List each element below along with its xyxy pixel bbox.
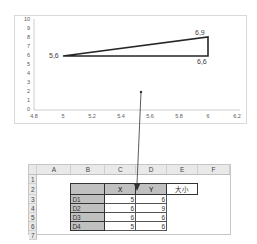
data-label: 5,6 [49, 52, 59, 59]
cell[interactable] [71, 184, 105, 195]
row-header[interactable]: 1 [29, 175, 37, 184]
y-cell[interactable]: 6 [136, 222, 167, 231]
triangle-series-line [63, 37, 208, 56]
cell[interactable] [198, 175, 230, 184]
row-header[interactable]: 4 [29, 204, 37, 213]
x-cell[interactable]: 6 [105, 213, 136, 222]
cell[interactable] [198, 195, 230, 204]
x-tick: 5.2 [82, 113, 102, 119]
cell[interactable] [105, 175, 136, 184]
sheet-row: 5 D3 6 6 [29, 213, 230, 222]
header-size-cell[interactable]: 大小 [167, 184, 198, 195]
column-header[interactable]: E [167, 165, 198, 175]
cell[interactable] [37, 204, 71, 213]
header-x-cell[interactable]: X [105, 184, 136, 195]
data-label: 6,9 [195, 29, 205, 36]
cell[interactable] [198, 184, 230, 195]
sheet-row: 4 D2 6 9 [29, 204, 230, 213]
column-header[interactable]: D [136, 165, 167, 175]
x-tick: 5.8 [169, 113, 189, 119]
y-tick: 6 [18, 52, 30, 58]
scatter-chart[interactable]: 10 9 8 7 6 5 4 3 2 1 0 4.8 5 5.2 5.4 5.6… [14, 15, 247, 124]
label-cell[interactable]: D2 [71, 204, 105, 213]
x-tick: 6 [198, 113, 218, 119]
y-tick: 4 [18, 70, 30, 76]
chart-plot [15, 16, 246, 123]
sheet-row: 2 X Y 大小 [29, 184, 230, 195]
cell[interactable] [37, 175, 71, 184]
x-cell[interactable]: 6 [105, 204, 136, 213]
cell[interactable] [167, 222, 198, 231]
cell[interactable] [198, 213, 230, 222]
x-tick: 4.8 [24, 113, 44, 119]
y-tick: 3 [18, 79, 30, 85]
sheet-row: 6 D4 5 6 [29, 222, 230, 231]
select-all-corner[interactable] [29, 165, 37, 175]
sheet-row: 7 [29, 231, 230, 240]
y-tick: 2 [18, 88, 30, 94]
x-tick: 5 [53, 113, 73, 119]
column-header[interactable]: F [198, 165, 230, 175]
column-header[interactable]: A [37, 165, 71, 175]
x-tick: 5.6 [140, 113, 160, 119]
sheet-row: 3 D1 5 6 [29, 195, 230, 204]
cell[interactable] [136, 175, 167, 184]
cell[interactable] [71, 231, 105, 240]
label-cell[interactable]: D1 [71, 195, 105, 204]
x-cell[interactable]: 5 [105, 222, 136, 231]
cell[interactable] [198, 222, 230, 231]
data-label: 6,6 [197, 58, 207, 65]
cell[interactable] [167, 213, 198, 222]
cell[interactable] [167, 204, 198, 213]
cell[interactable] [167, 175, 198, 184]
column-header[interactable]: C [105, 165, 136, 175]
cell[interactable] [37, 195, 71, 204]
y-tick: 5 [18, 61, 30, 67]
x-cell[interactable]: 5 [105, 195, 136, 204]
y-tick: 7 [18, 43, 30, 49]
cell[interactable] [37, 231, 71, 240]
row-header[interactable]: 2 [29, 184, 37, 195]
y-tick: 1 [18, 97, 30, 103]
cell[interactable] [198, 231, 230, 240]
x-tick: 6.2 [227, 113, 247, 119]
row-header[interactable]: 7 [29, 231, 37, 240]
cell[interactable] [37, 213, 71, 222]
row-header[interactable]: 6 [29, 222, 37, 231]
sheet-row: 1 [29, 175, 230, 184]
y-cell[interactable]: 9 [136, 204, 167, 213]
cell[interactable] [37, 184, 71, 195]
y-tick: 8 [18, 34, 30, 40]
row-header[interactable]: 5 [29, 213, 37, 222]
y-tick: 10 [18, 16, 30, 22]
column-header[interactable]: B [71, 165, 105, 175]
cell[interactable] [37, 222, 71, 231]
row-header[interactable]: 3 [29, 195, 37, 204]
cell[interactable] [198, 204, 230, 213]
cell[interactable] [167, 231, 198, 240]
y-tick: 9 [18, 25, 30, 31]
y-cell[interactable]: 6 [136, 195, 167, 204]
label-cell[interactable]: D3 [71, 213, 105, 222]
header-y-cell[interactable]: Y [136, 184, 167, 195]
spreadsheet[interactable]: A B C D E F 1 2 X Y 大小 3 D1 5 6 [28, 164, 231, 235]
cell[interactable] [136, 231, 167, 240]
y-cell[interactable]: 6 [136, 213, 167, 222]
y-tick: 0 [18, 106, 30, 112]
x-tick: 5.4 [111, 113, 131, 119]
column-header-row: A B C D E F [29, 165, 230, 175]
cell[interactable] [71, 175, 105, 184]
cell[interactable] [105, 231, 136, 240]
cell[interactable] [167, 195, 198, 204]
label-cell[interactable]: D4 [71, 222, 105, 231]
